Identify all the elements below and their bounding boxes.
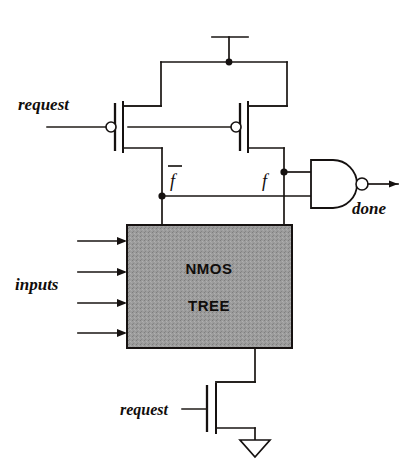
tree-to-footer-wire: [216, 348, 255, 382]
pmos-precharge-right: [231, 101, 287, 153]
label-inputs: inputs: [15, 275, 59, 294]
vdd-rail-icon: [212, 37, 248, 62]
vdd-to-pmos-right-wire: [248, 62, 287, 106]
label-f-bar-group: f: [168, 166, 182, 191]
vdd-horizontal-rail: [161, 59, 287, 66]
label-request-bottom: request: [120, 401, 169, 419]
input-arrow: [78, 329, 127, 337]
input-arrow: [78, 237, 127, 245]
done-arrowhead: [389, 181, 398, 188]
nmos-tree-block: [127, 225, 292, 348]
vdd-to-pmos-left-wire: [123, 62, 161, 106]
circuit-diagram-canvas: request inputs request done f f NMOS TRE…: [0, 0, 407, 462]
label-f: f: [262, 171, 270, 191]
label-done: done: [352, 199, 386, 218]
f-bar-net: [158, 148, 165, 225]
label-request-top: request: [18, 95, 70, 114]
nand-output-bubble: [356, 178, 368, 190]
label-f-bar: f: [170, 171, 178, 191]
ground-symbol: [240, 440, 270, 457]
nmos-footer: [182, 382, 255, 440]
nmos-tree-label-line2: TREE: [188, 297, 230, 314]
nmos-tree-label-line1: NMOS: [186, 260, 233, 277]
input-arrows-group: [78, 237, 127, 337]
input-arrow: [78, 299, 127, 307]
vdd-junction-dot: [226, 59, 233, 66]
input-arrow: [78, 268, 127, 276]
f-net: [280, 148, 287, 225]
